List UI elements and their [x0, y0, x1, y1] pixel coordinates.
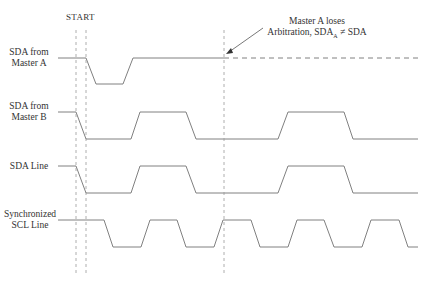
waveform-sda-master-b — [58, 112, 418, 139]
signal-label-sda-line: SDA Line — [0, 161, 58, 172]
signal-label-sda-master-a: SDA from Master A — [0, 47, 58, 69]
arbitration-annotation: Master A loses Arbitration, SDAA ≠ SDA — [262, 16, 372, 42]
i2c-arbitration-timing-diagram — [0, 0, 429, 287]
annotation-line1: Master A loses — [262, 16, 372, 27]
signal-label-sda-master-b: SDA from Master B — [0, 101, 58, 123]
signal-label-scl-line: Synchronized SCL Line — [0, 209, 60, 231]
waveform-scl-line — [58, 220, 418, 247]
arbitration-arrow — [226, 28, 263, 54]
waveform-sda-line — [58, 166, 418, 193]
annotation-line2: Arbitration, SDAA ≠ SDA — [262, 27, 372, 42]
start-label: START — [66, 12, 95, 23]
waveform-sda-master-a — [58, 58, 224, 84]
